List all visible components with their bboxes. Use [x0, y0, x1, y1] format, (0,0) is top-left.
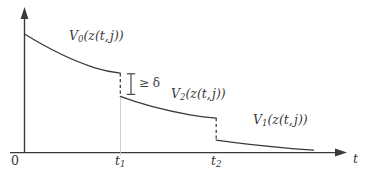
curve-v1	[216, 140, 313, 150]
origin-label-text: 0	[11, 153, 19, 168]
x-axis-arrowhead	[335, 149, 347, 157]
curve-label-v2: V2(z(t, j))	[171, 88, 226, 101]
tick-label-t2: t2	[211, 155, 221, 168]
x-axis-label: t	[353, 153, 358, 166]
curve-label-v2-text: V2(z(t, j))	[171, 86, 226, 101]
delta-annotation-text: ≥ δ	[139, 76, 160, 90]
tick-label-t1-text: t1	[115, 153, 125, 168]
tick-label-t2-text: t2	[211, 153, 221, 168]
curve-label-v1-text: V1(z(t, j))	[253, 112, 308, 127]
origin-label: 0	[11, 155, 19, 168]
curve-label-v1: V1(z(t, j))	[253, 114, 308, 127]
delta-measure-bar	[127, 74, 135, 95]
curve-label-v0-text: V0(z(t, j))	[69, 28, 124, 43]
x-axis-label-text: t	[353, 151, 358, 166]
lyapunov-hybrid-figure: V0(z(t, j)) V2(z(t, j)) V1(z(t, j)) ≥ δ …	[0, 0, 368, 177]
y-axis-arrowhead	[21, 7, 29, 19]
curve-label-v0: V0(z(t, j))	[69, 30, 124, 43]
tick-label-t1: t1	[115, 155, 125, 168]
delta-annotation: ≥ δ	[139, 77, 160, 89]
